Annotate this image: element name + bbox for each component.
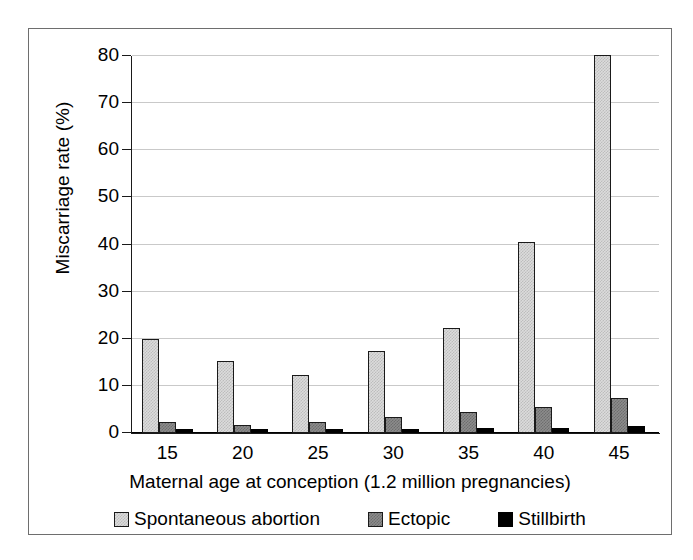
legend-swatch-icon [368,512,383,527]
y-axis-line [131,56,132,433]
y-tick-label: 80 [98,44,119,66]
bar [594,55,611,433]
bar [460,412,477,433]
bar [234,425,251,433]
bar [326,429,343,433]
legend-item[interactable]: Stillbirth [498,508,586,530]
x-tick-label: 15 [157,442,178,464]
x-tick-label: 30 [383,442,404,464]
legend-item[interactable]: Spontaneous abortion [114,508,320,530]
y-tick-mark [122,102,131,103]
y-tick-mark [122,149,131,150]
bar-group: 15 [142,56,193,433]
legend-item[interactable]: Ectopic [368,508,450,530]
bar-group: 45 [594,56,645,433]
bar [251,429,268,433]
y-tick-mark [122,244,131,245]
legend-label: Spontaneous abortion [134,508,320,530]
y-tick-mark [122,385,131,386]
bar-group: 40 [518,56,569,433]
bar [385,417,402,433]
x-tick-label: 20 [232,442,253,464]
y-tick-mark [122,432,131,433]
bar [292,375,309,433]
bar [368,351,385,433]
y-tick-label: 70 [98,91,119,113]
bar [309,422,326,433]
legend-label: Ectopic [388,508,450,530]
bar [628,426,645,433]
plot-area: 01020304050607080 15202530354045 [132,56,659,433]
bar [535,407,552,433]
bar [518,242,535,433]
y-tick-mark [122,55,131,56]
x-tick-label: 40 [533,442,554,464]
y-tick-mark [122,196,131,197]
y-tick-label: 40 [98,233,119,255]
x-axis-title: Maternal age at conception (1.2 million … [29,471,671,493]
bar [176,429,193,433]
bar [142,339,159,433]
legend-swatch-icon [114,512,129,527]
legend-label: Stillbirth [518,508,586,530]
bar [611,398,628,433]
bar [402,429,419,433]
y-tick-label: 0 [108,421,119,443]
bar [159,422,176,433]
x-tick-label: 35 [458,442,479,464]
chart-legend: Spontaneous abortionEctopicStillbirth [29,508,671,530]
bar [443,328,460,433]
y-tick-label: 20 [98,327,119,349]
x-tick-label: 45 [609,442,630,464]
x-tick-label: 25 [307,442,328,464]
bar [552,428,569,433]
bar-group: 30 [368,56,419,433]
y-axis-title: Miscarriage rate (%) [52,28,74,348]
bar [217,361,234,433]
figure-frame: Miscarriage rate (%) 01020304050607080 1… [28,28,672,535]
bar-group: 20 [217,56,268,433]
y-tick-label: 10 [98,374,119,396]
y-tick-label: 60 [98,138,119,160]
y-tick-label: 50 [98,185,119,207]
y-tick-label: 30 [98,280,119,302]
bar [477,428,494,433]
legend-swatch-icon [498,512,513,527]
bar-group: 35 [443,56,494,433]
y-tick-mark [122,291,131,292]
x-axis-line [131,433,660,434]
y-tick-mark [122,338,131,339]
bar-group: 25 [292,56,343,433]
